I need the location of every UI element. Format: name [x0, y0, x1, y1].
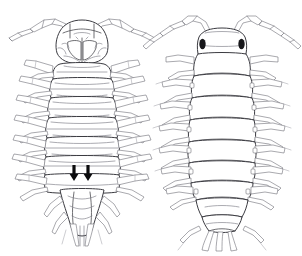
eye-left-icon — [199, 39, 205, 49]
ventral-cephalon — [56, 20, 108, 64]
figure-root — [0, 0, 302, 256]
isopod-plate — [0, 0, 302, 256]
eye-right-icon — [238, 39, 244, 49]
